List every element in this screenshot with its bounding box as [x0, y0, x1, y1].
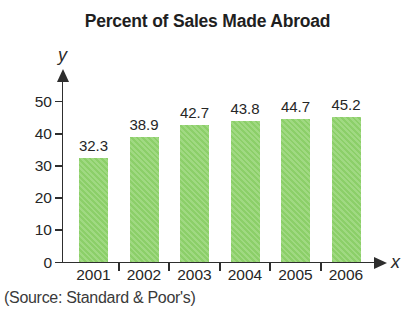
bar-chart-figure: Percent of Sales Made Abroad y x 0102030… — [0, 0, 415, 313]
bar-value-label: 43.8 — [220, 100, 270, 118]
x-tick-label: 2005 — [271, 266, 321, 284]
y-tick-label: 20 — [16, 189, 52, 207]
bar-value-label: 42.7 — [170, 104, 220, 122]
x-tick-label: 2003 — [170, 266, 220, 284]
x-tick-label: 2002 — [119, 266, 169, 284]
bar-value-label: 45.2 — [321, 96, 371, 114]
bar-value-label: 38.9 — [119, 116, 169, 134]
y-tick-label: 10 — [16, 221, 52, 239]
bar — [332, 117, 361, 263]
x-axis-label: x — [391, 252, 400, 273]
y-axis-label: y — [58, 45, 67, 66]
y-tick-label: 0 — [16, 254, 52, 272]
y-tick — [55, 101, 63, 103]
chart-title: Percent of Sales Made Abroad — [0, 11, 415, 32]
y-tick — [55, 165, 63, 167]
bar — [231, 121, 260, 262]
x-tick-label: 2006 — [321, 266, 371, 284]
x-tick-label: 2004 — [220, 266, 270, 284]
y-tick — [55, 262, 63, 264]
y-tick — [55, 133, 63, 135]
y-tick-label: 40 — [16, 125, 52, 143]
bar — [180, 125, 209, 262]
bar — [130, 137, 159, 262]
bar — [281, 119, 310, 263]
bar — [79, 158, 108, 262]
y-tick — [55, 197, 63, 199]
y-tick — [55, 229, 63, 231]
y-tick-label: 50 — [16, 93, 52, 111]
y-tick-label: 30 — [16, 157, 52, 175]
y-axis-line — [62, 78, 64, 263]
x-axis-arrow-icon — [374, 257, 387, 269]
bar-value-label: 32.3 — [69, 137, 119, 155]
source-note: (Source: Standard & Poor's) — [4, 289, 196, 307]
bar-value-label: 44.7 — [271, 98, 321, 116]
x-tick-label: 2001 — [69, 266, 119, 284]
